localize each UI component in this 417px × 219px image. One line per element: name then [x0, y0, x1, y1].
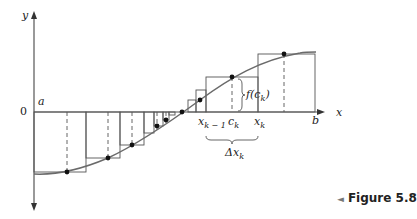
riemann-rectangles — [34, 54, 315, 172]
caption-marker-icon: ◄ — [337, 194, 344, 204]
delta-x-k-label: Δxk — [225, 147, 244, 161]
fck-brace — [238, 79, 245, 111]
f-c-k-label: f(ck) — [246, 89, 270, 103]
a-label: a — [38, 96, 45, 107]
x-k-minus-1-label: xk − 1 — [198, 116, 226, 130]
caption-text: Figure 5.8 — [348, 191, 417, 205]
x-axis-label: x — [336, 107, 342, 118]
origin-label: 0 — [20, 106, 27, 117]
sample-points — [65, 52, 287, 175]
figure-caption: ◄Figure 5.8 — [337, 191, 417, 205]
x-k-label: xk — [254, 116, 265, 130]
sample-dashes — [67, 54, 284, 172]
b-label: b — [312, 115, 319, 126]
y-axis-arrow-up-icon — [31, 11, 37, 19]
delta-x-brace — [206, 136, 258, 144]
c-k-label: ck — [228, 116, 239, 130]
y-axis-label: y — [22, 10, 28, 21]
y-axis-arrow-down-icon — [31, 203, 37, 211]
